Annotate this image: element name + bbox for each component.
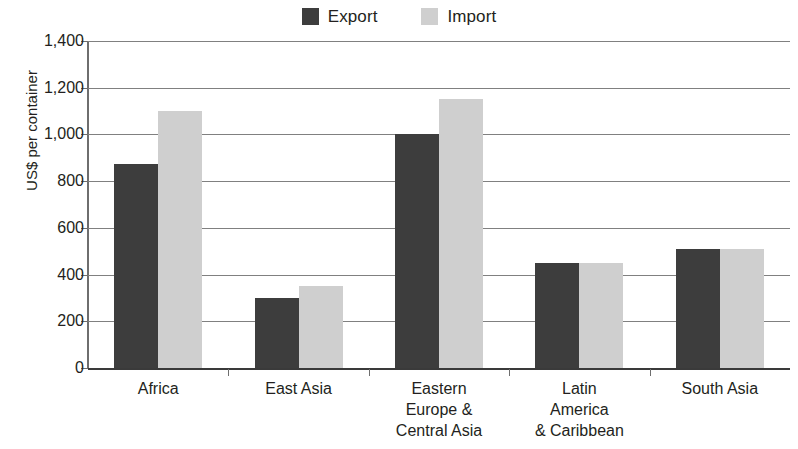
bar-export: [535, 263, 579, 368]
bar-export: [395, 134, 439, 368]
x-axis-label-line: & Caribbean: [504, 420, 654, 441]
bar-group: [114, 41, 202, 368]
y-tick-label: 0: [14, 360, 84, 376]
x-axis-label: EasternEurope &Central Asia: [364, 378, 514, 441]
chart-legend: Export Import: [0, 4, 798, 28]
y-tick-label: 1,200: [14, 80, 84, 96]
x-axis-label-line: Latin: [504, 378, 654, 399]
y-tick-label: 600: [14, 220, 84, 236]
x-axis-label: LatinAmerica& Caribbean: [504, 378, 654, 441]
legend-label-import: Import: [447, 8, 496, 25]
x-tick-mark: [650, 369, 651, 376]
bar-import: [439, 99, 483, 368]
bar-group: [395, 41, 483, 368]
x-axis-label: South Asia: [645, 378, 795, 399]
bar-chart: Export Import US$ per container 02004006…: [0, 0, 798, 449]
y-tick-label: 1,000: [14, 126, 84, 142]
x-axis-label-line: America: [504, 399, 654, 420]
bar-export: [114, 164, 158, 368]
x-axis-label-line: Eastern: [364, 378, 514, 399]
bar-group: [255, 41, 343, 368]
x-axis-label: East Asia: [224, 378, 374, 399]
y-tick-label: 1,400: [14, 33, 84, 49]
x-axis-label-line: East Asia: [224, 378, 374, 399]
bar-import: [299, 286, 343, 368]
x-axis-label: Africa: [83, 378, 233, 399]
y-tick-label: 400: [14, 267, 84, 283]
bar-group: [535, 41, 623, 368]
x-tick-mark: [369, 369, 370, 376]
x-tick-mark: [228, 369, 229, 376]
bar-export: [255, 298, 299, 368]
bar-export: [676, 249, 720, 368]
bar-import: [579, 263, 623, 368]
x-axis-label-line: Europe &: [364, 399, 514, 420]
legend-item-import: Import: [421, 8, 496, 25]
bar-import: [720, 249, 764, 368]
x-axis-label-line: South Asia: [645, 378, 795, 399]
legend-item-export: Export: [302, 8, 378, 25]
y-tick-label: 200: [14, 313, 84, 329]
legend-label-export: Export: [328, 8, 378, 25]
x-tick-mark: [509, 369, 510, 376]
bar-import: [158, 111, 202, 368]
x-axis-label-line: Africa: [83, 378, 233, 399]
legend-swatch-export: [302, 8, 319, 25]
plot-area: [88, 41, 790, 368]
legend-swatch-import: [421, 8, 438, 25]
x-axis-line: [88, 368, 790, 370]
y-tick-label: 800: [14, 173, 84, 189]
x-axis-label-line: Central Asia: [364, 420, 514, 441]
bar-group: [676, 41, 764, 368]
